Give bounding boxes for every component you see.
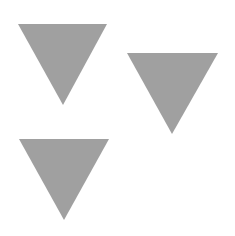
triangle-down-icon-2 xyxy=(127,53,218,134)
shapes-layer xyxy=(0,0,235,236)
diagram-canvas xyxy=(0,0,235,236)
triangle-down-icon-3 xyxy=(19,139,109,220)
triangle-down-icon-1 xyxy=(18,24,107,105)
